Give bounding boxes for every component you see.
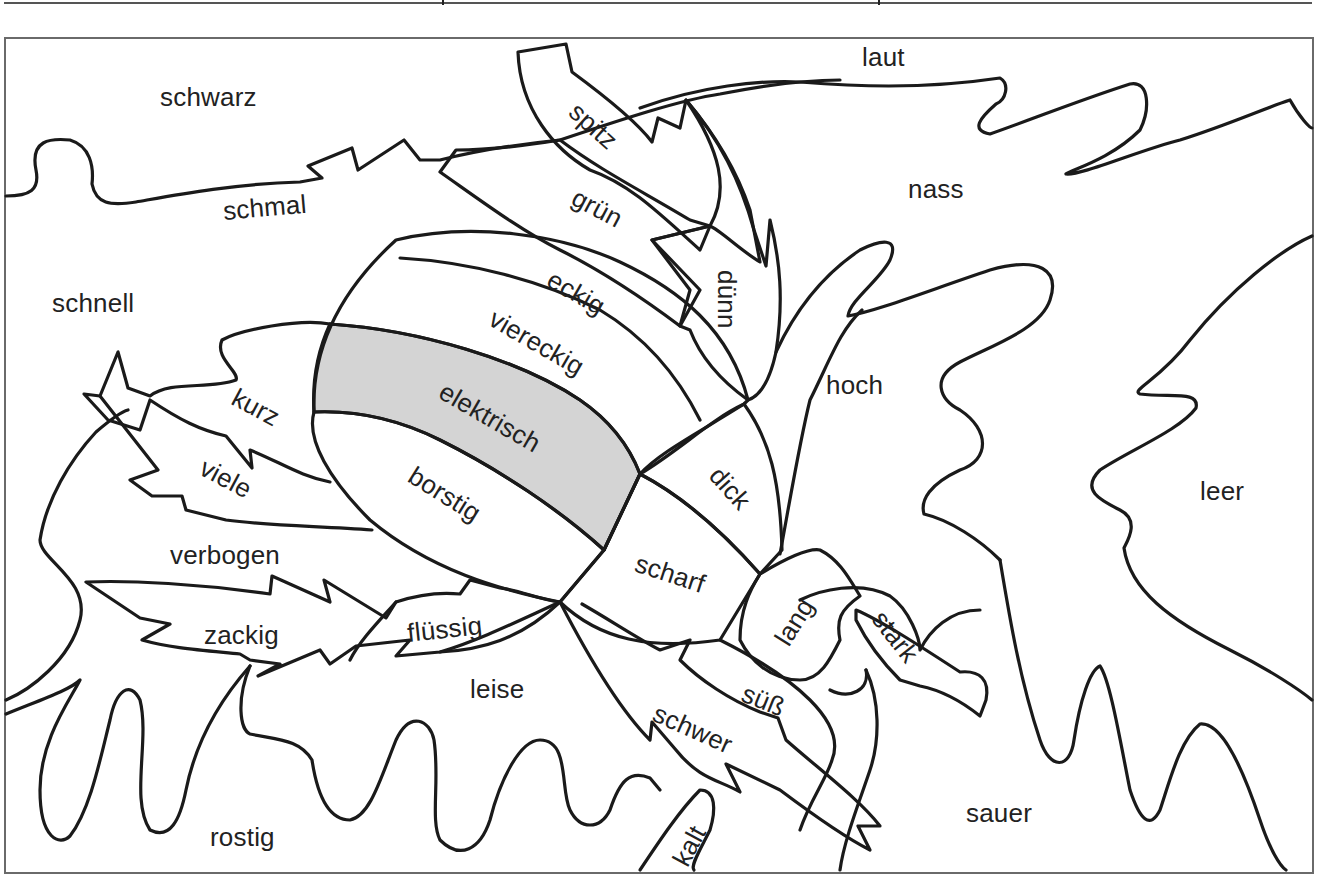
word-label-leer[interactable]: leer (1200, 478, 1244, 504)
word-label-verbogen[interactable]: verbogen (170, 542, 280, 568)
word-label-zackig[interactable]: zackig (204, 622, 279, 648)
region-zackig (86, 576, 560, 676)
region-duenn (652, 100, 780, 400)
word-label-leise[interactable]: leise (470, 676, 524, 702)
word-label-sauer[interactable]: sauer (966, 800, 1032, 826)
region-verbogen (6, 410, 128, 700)
region-boundary-laut (640, 78, 1312, 174)
word-label-laut[interactable]: laut (862, 44, 905, 70)
region-leise-waves (241, 666, 660, 850)
word-label-schwarz[interactable]: schwarz (160, 84, 257, 110)
region-sauer-left (840, 670, 877, 870)
word-label-schnell[interactable]: schnell (52, 290, 134, 316)
region-boundary-leer (1092, 236, 1312, 700)
word-label-hoch[interactable]: hoch (826, 372, 883, 398)
region-viele (100, 396, 372, 530)
beetle-puzzle-illustration (0, 0, 1317, 885)
region-boundary-nass (776, 242, 1053, 560)
region-boundary-hoch (780, 310, 980, 650)
word-label-duenn[interactable]: dünn (714, 270, 740, 329)
region-sauer-waves (1000, 560, 1286, 870)
word-label-nass[interactable]: nass (908, 176, 964, 202)
word-label-fluessig[interactable]: flüssig (406, 612, 483, 646)
word-label-schmal[interactable]: schmal (222, 191, 308, 224)
region-rostig-waves (6, 666, 250, 840)
word-label-rostig[interactable]: rostig (210, 824, 275, 850)
